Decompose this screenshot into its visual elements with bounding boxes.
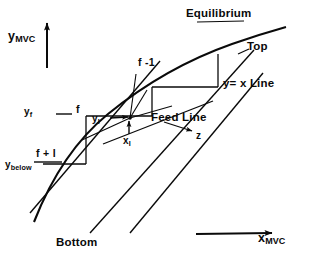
y-I-label: yI <box>92 114 100 125</box>
stage-label-f-minus-1: f -1 <box>138 57 155 68</box>
yI-pointer-arrow <box>110 117 128 118</box>
diagonal-line <box>130 73 263 233</box>
x-I-label: xI <box>123 136 131 147</box>
stage-label-f: f <box>76 104 80 115</box>
diagonal-line-label: y= x Line <box>223 78 274 90</box>
mccabe-thiele-diagram: yMVC xMVC Equilibrium Top y= x Line Feed… <box>0 0 309 261</box>
y-below-label: ybelow <box>5 160 32 171</box>
equilibrium-label-underline <box>197 21 244 22</box>
intersection-leader-lines <box>82 74 172 140</box>
feed-line-label: Feed Line <box>151 112 206 124</box>
bottom-operating-line-label: Bottom <box>56 237 97 249</box>
z-point-label: z <box>196 131 201 141</box>
x-axis-label: xMVC <box>258 232 285 246</box>
y-f-label: yf <box>24 107 32 118</box>
y-axis-label: yMVC <box>8 30 35 44</box>
stage-label-f-plus-1: f + l <box>36 148 56 159</box>
equilibrium-curve-label: Equilibrium <box>186 8 251 20</box>
top-operating-line-label: Top <box>247 41 268 53</box>
bottom-operating-line <box>30 61 160 213</box>
